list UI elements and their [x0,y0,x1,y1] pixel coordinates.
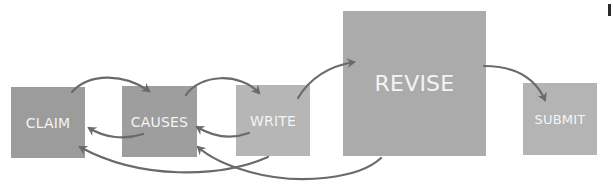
arrow-claim-to-causes [72,78,149,92]
flow-arrows [0,0,613,192]
arrow-write-to-revise [298,62,354,98]
arrow-write-to-causes [197,127,249,137]
arrow-causes-to-claim [89,128,143,137]
arrow-revise-to-submit [484,66,545,100]
arrow-revise-to-causes [198,147,381,179]
arrow-causes-to-write [186,78,259,95]
